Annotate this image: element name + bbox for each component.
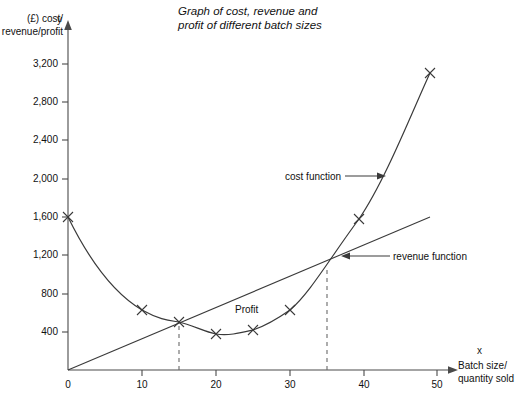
data-point-marker bbox=[285, 305, 295, 315]
annotation-arrows bbox=[341, 173, 390, 260]
revenue-function-line bbox=[68, 217, 430, 370]
data-point-marker bbox=[137, 305, 147, 315]
y-axis-ticks bbox=[62, 64, 68, 332]
x-axis-variable-label: x bbox=[477, 345, 482, 356]
data-point-markers bbox=[63, 68, 435, 339]
chart-title-line-1: Graph of cost, revenue and bbox=[178, 4, 408, 18]
x-tick-label: 30 bbox=[270, 379, 310, 390]
x-tick-label: 0 bbox=[48, 379, 88, 390]
y-axis-title: (£) cost/ revenue/profit bbox=[0, 13, 63, 38]
data-point-marker bbox=[425, 68, 435, 78]
cost-function-arrow-icon bbox=[345, 173, 386, 180]
cost-function-annotation: cost function bbox=[285, 171, 341, 182]
x-axis-title-line-2: quantity sold bbox=[458, 373, 520, 386]
revenue-function-annotation: revenue function bbox=[393, 251, 467, 262]
y-tick-label: 800 bbox=[0, 288, 58, 299]
x-tick-label: 10 bbox=[122, 379, 162, 390]
y-tick-label: 1,600 bbox=[0, 211, 58, 222]
x-axis-title: Batch size/ quantity sold bbox=[458, 360, 520, 385]
y-axis-title-line-1: (£) cost/ bbox=[0, 13, 63, 26]
y-tick-label: 2,400 bbox=[0, 134, 58, 145]
x-axis-ticks bbox=[142, 370, 437, 376]
y-tick-label: 2,000 bbox=[0, 173, 58, 184]
revenue-function-arrow-icon bbox=[341, 253, 390, 260]
y-tick-label: 400 bbox=[0, 326, 58, 337]
x-tick-label: 50 bbox=[417, 379, 457, 390]
cost-function-curve bbox=[68, 73, 430, 335]
y-tick-label: 3,200 bbox=[0, 58, 58, 69]
data-point-marker bbox=[354, 214, 364, 224]
chart-title: Graph of cost, revenue and profit of dif… bbox=[178, 4, 408, 32]
y-axis-title-line-2: revenue/profit bbox=[0, 26, 63, 39]
x-tick-label: 40 bbox=[344, 379, 384, 390]
y-tick-label: 1,200 bbox=[0, 249, 58, 260]
x-tick-label: 20 bbox=[196, 379, 236, 390]
y-tick-label: 2,800 bbox=[0, 96, 58, 107]
chart-title-line-2: profit of different batch sizes bbox=[178, 18, 408, 32]
guide-lines bbox=[179, 269, 327, 370]
chart-container: Graph of cost, revenue and profit of dif… bbox=[0, 0, 521, 402]
x-axis-title-line-1: Batch size/ bbox=[458, 360, 520, 373]
data-point-marker bbox=[248, 325, 258, 335]
y-axis bbox=[64, 20, 72, 370]
profit-annotation: Profit bbox=[235, 304, 258, 315]
chart-plot-area bbox=[0, 0, 521, 402]
x-axis bbox=[68, 366, 458, 374]
x-axis-arrow-icon bbox=[448, 366, 458, 374]
y-axis-arrow-icon bbox=[64, 20, 72, 30]
